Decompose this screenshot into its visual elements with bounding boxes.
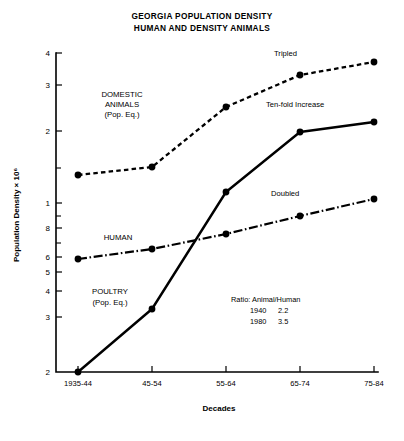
series-label-domestic-animals: DOMESTIC ANIMALS (Pop. Eq.) (101, 90, 143, 119)
y-axis-tick-labels: 4 3 2 1 8 6 5 4 3 2 (46, 49, 51, 377)
series-poultry (75, 119, 378, 376)
data-point (75, 172, 82, 179)
series-label-line: (Pop. Eq.) (104, 110, 140, 119)
data-point (297, 213, 304, 220)
data-point (297, 72, 304, 79)
y-tick-label: 5 (46, 268, 51, 277)
y-tick-label: 4 (46, 49, 51, 58)
x-axis-ticks (78, 366, 374, 372)
data-point (149, 164, 156, 171)
y-tick-label: 2 (46, 127, 51, 136)
data-point (371, 119, 378, 126)
x-tick-label: 45-54 (142, 379, 161, 388)
x-axis-title: Decades (203, 404, 236, 413)
data-point (223, 231, 230, 238)
series-poultry-line (78, 122, 374, 372)
data-point (371, 196, 378, 203)
series-human (75, 196, 378, 263)
y-axis-title: Population Density × 10⁶ (12, 168, 21, 262)
chart-plot-area: 4 3 2 1 8 6 5 4 3 2 Population Density ×… (0, 0, 404, 441)
series-label-human: HUMAN (104, 233, 133, 242)
y-tick-label: 8 (46, 224, 51, 233)
ratio-row-year: 1980 (250, 317, 266, 326)
series-human-line (78, 199, 374, 259)
y-tick-label: 6 (46, 253, 51, 262)
x-tick-label: 65-74 (290, 379, 309, 388)
series-label-line: (Pop. Eq.) (92, 298, 128, 307)
x-tick-label: 75-84 (364, 379, 383, 388)
data-point (371, 59, 378, 66)
y-tick-label: 4 (46, 287, 51, 296)
data-point (75, 369, 82, 376)
annotation-tripled: Tripled (274, 49, 297, 58)
data-point (149, 306, 156, 313)
y-tick-label: 2 (46, 368, 51, 377)
y-tick-label: 3 (46, 81, 51, 90)
y-axis-ticks (56, 53, 62, 317)
series-label-poultry: POULTRY (Pop. Eq.) (92, 287, 129, 307)
data-point (149, 246, 156, 253)
x-axis-tick-labels: 1935-44 45-54 55-64 65-74 75-84 (64, 379, 384, 388)
ratio-row-year: 1940 (250, 306, 266, 315)
annotation-tenfold-increase: Ten-fold Increase (266, 100, 324, 109)
ratio-row-value: 3.5 (278, 317, 288, 326)
data-point (223, 104, 230, 111)
y-tick-label: 3 (46, 313, 51, 322)
x-tick-label: 55-64 (216, 379, 235, 388)
series-label-line: DOMESTIC (101, 90, 143, 99)
data-point (223, 189, 230, 196)
data-point (75, 256, 82, 263)
chart-figure: GEORGIA POPULATION DENSITY HUMAN AND DEN… (0, 0, 404, 441)
annotation-doubled: Doubled (271, 189, 299, 198)
series-label-line: ANIMALS (105, 100, 139, 109)
ratio-annotation-box: Ratio: Animal/Human 1940 2.2 1980 3.5 (231, 295, 300, 326)
ratio-header: Ratio: Animal/Human (231, 295, 300, 304)
y-tick-label: 1 (46, 199, 51, 208)
ratio-row-value: 2.2 (278, 306, 288, 315)
data-point (297, 129, 304, 136)
series-label-line: POULTRY (92, 287, 129, 296)
x-tick-label: 1935-44 (64, 379, 92, 388)
